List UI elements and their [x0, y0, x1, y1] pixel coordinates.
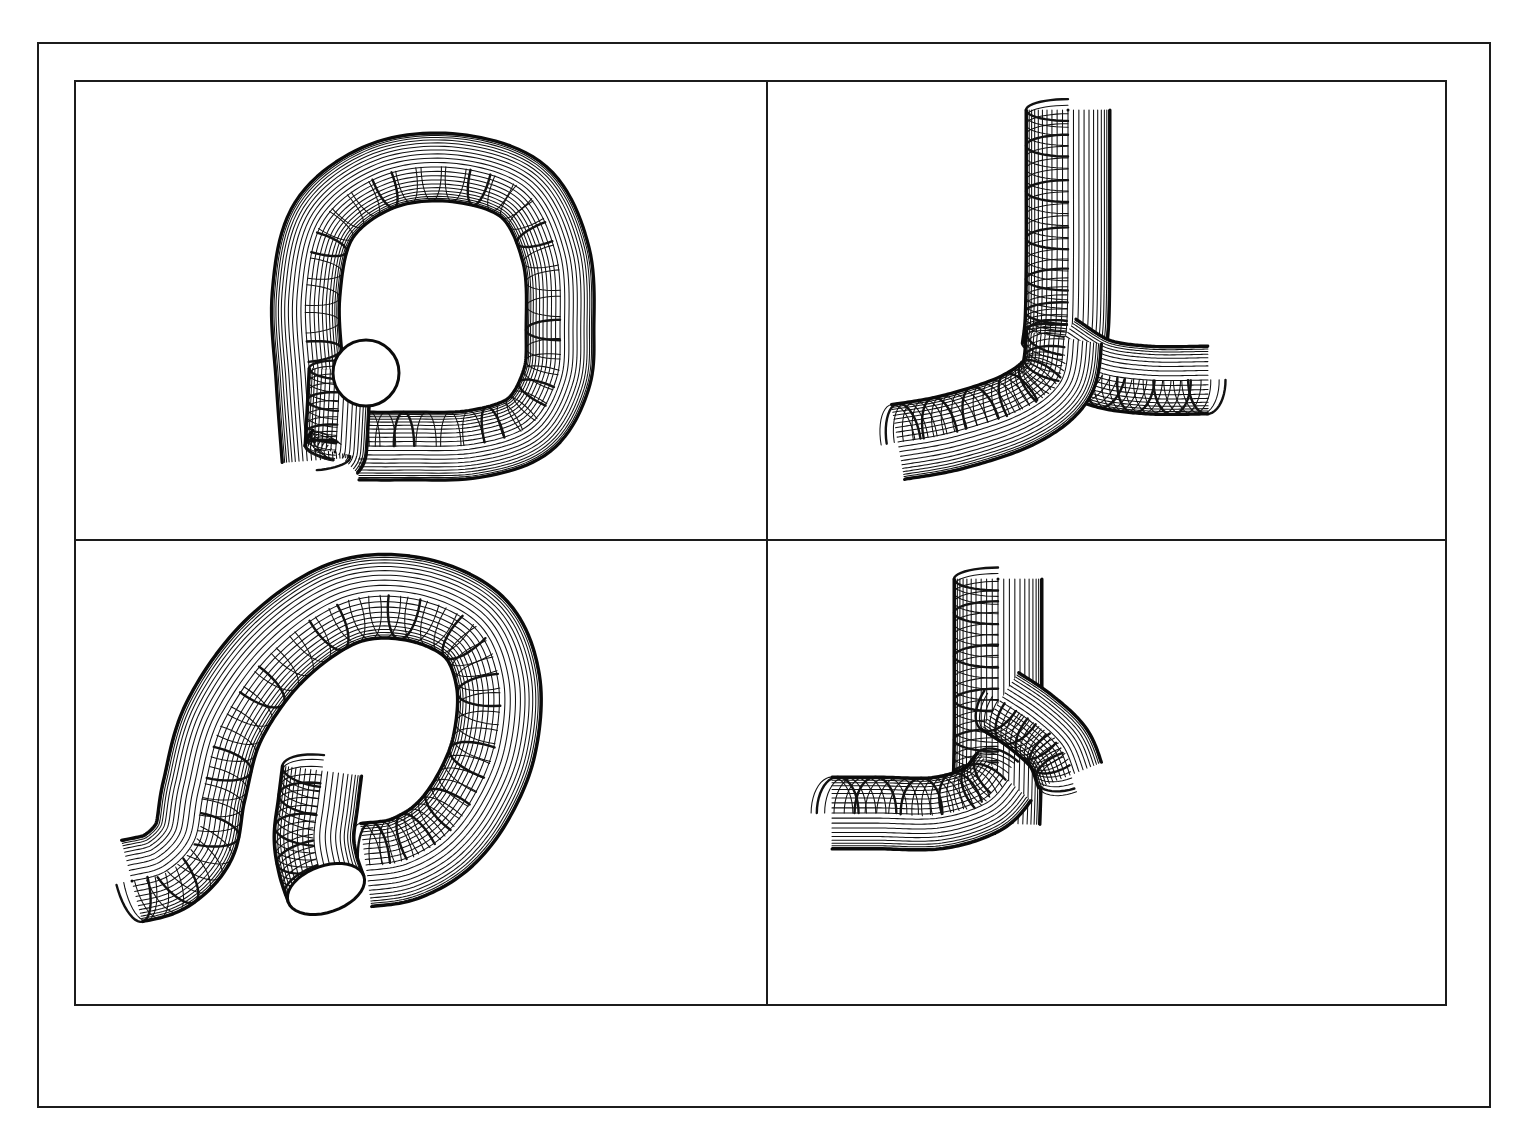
panel-top-left: [74, 80, 767, 540]
y-branch-tube-mesh: [768, 80, 1447, 540]
panel-bottom-right: [768, 541, 1447, 1006]
panel-top-right: [768, 80, 1447, 540]
open-loop-tube-mesh: [74, 541, 767, 1006]
closed-loop-tube-mesh: [74, 80, 767, 540]
panel-bottom-left: [74, 541, 767, 1006]
figure-root: [0, 0, 1523, 1135]
t-branch-tube-mesh: [768, 541, 1447, 1006]
